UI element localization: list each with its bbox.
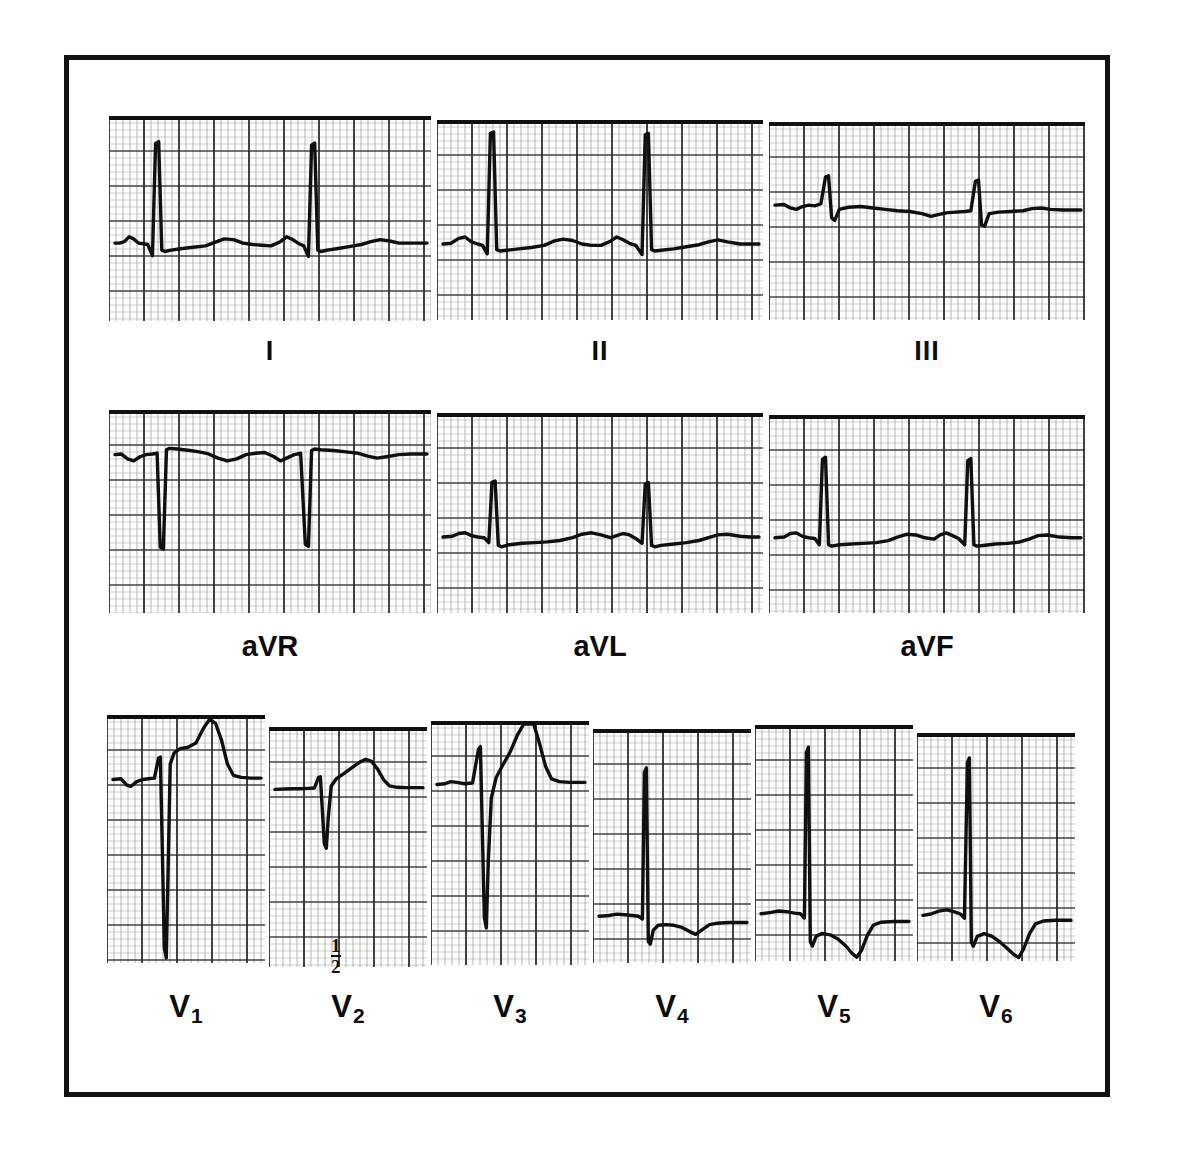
lead-label-V5-text: V xyxy=(817,989,838,1024)
lead-label-V5-subscript: 5 xyxy=(839,1004,851,1027)
half-standard-denominator: 2 xyxy=(331,957,341,975)
ecg-grid-and-trace-V3 xyxy=(431,721,589,965)
ecg-grid-and-trace-V4 xyxy=(593,729,751,963)
ecg-row-precordial-leads: 1 2 V1 V2 V3 V4 V5 V6 xyxy=(69,715,1105,1045)
ecg-strip-V3 xyxy=(431,721,589,965)
ecg-strip-V6 xyxy=(917,733,1075,961)
ecg-grid-and-trace-aVR xyxy=(109,410,431,613)
lead-label-V6-text: V xyxy=(979,989,1000,1024)
ecg-strip-V4 xyxy=(593,729,751,963)
ecg-strip-II xyxy=(437,120,763,320)
lead-label-aVR: aVR xyxy=(109,632,431,661)
ecg-strip-aVL xyxy=(437,413,763,613)
lead-label-III: III xyxy=(769,338,1085,365)
half-standard-calibration-mark: 1 2 xyxy=(331,937,341,976)
half-standard-numerator: 1 xyxy=(331,937,341,957)
lead-label-V2-subscript: 2 xyxy=(353,1004,365,1027)
ecg-strip-I xyxy=(109,116,431,321)
ecg-grid-and-trace-aVF xyxy=(769,415,1085,613)
lead-label-V4-text: V xyxy=(655,989,676,1024)
lead-label-V5: V5 xyxy=(755,991,913,1026)
ecg-grid-and-trace-V6 xyxy=(917,733,1075,961)
ecg-grid-and-trace-I xyxy=(109,116,431,321)
ecg-strip-III xyxy=(769,122,1085,320)
lead-label-V1: V1 xyxy=(107,991,265,1026)
ecg-grid-and-trace-aVL xyxy=(437,413,763,613)
ecg-strip-V5 xyxy=(755,725,913,961)
lead-label-V3-subscript: 3 xyxy=(515,1004,527,1027)
ecg-row-limb-leads: I II III xyxy=(69,116,1105,386)
lead-label-V3-text: V xyxy=(493,989,514,1024)
ecg-strip-aVF xyxy=(769,415,1085,613)
lead-label-aVF: aVF xyxy=(769,632,1085,661)
ecg-figure-frame: I II III aVR aVL aVF 1 2 V1 V2 V3 V4 V5 … xyxy=(64,55,1110,1097)
ecg-grid-and-trace-V1 xyxy=(107,715,265,963)
lead-label-V2-text: V xyxy=(331,989,352,1024)
ecg-grid-and-trace-II xyxy=(437,120,763,320)
ecg-grid-and-trace-III xyxy=(769,122,1085,320)
lead-label-V1-subscript: 1 xyxy=(191,1004,203,1027)
lead-label-I: I xyxy=(109,338,431,365)
ecg-strip-V2 xyxy=(269,727,427,967)
lead-label-V2: V2 xyxy=(269,991,427,1026)
lead-label-aVL: aVL xyxy=(437,632,763,661)
lead-label-V6: V6 xyxy=(917,991,1075,1026)
ecg-grid-and-trace-V5 xyxy=(755,725,913,961)
lead-label-V3: V3 xyxy=(431,991,589,1026)
lead-label-V4-subscript: 4 xyxy=(677,1004,689,1027)
lead-label-V1-text: V xyxy=(169,989,190,1024)
ecg-strip-aVR xyxy=(109,410,431,613)
lead-label-V4: V4 xyxy=(593,991,751,1026)
lead-label-V6-subscript: 6 xyxy=(1001,1004,1013,1027)
ecg-row-augmented-leads: aVR aVL aVF xyxy=(69,410,1105,680)
lead-label-II: II xyxy=(437,338,763,365)
ecg-grid-and-trace-V2 xyxy=(269,727,427,967)
ecg-strip-V1 xyxy=(107,715,265,963)
